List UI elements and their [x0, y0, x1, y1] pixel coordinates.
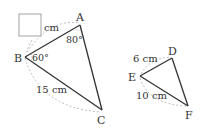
angle-a-label: 80°	[66, 34, 83, 45]
side-ed-label: 6 cm	[133, 53, 158, 64]
arc-b-upper	[26, 40, 32, 52]
similar-triangles-diagram: cm A B C 80° 60° 15 cm 6 cm D E F 10 cm	[0, 0, 205, 129]
vertex-d-label: D	[168, 45, 177, 58]
side-df	[172, 58, 188, 106]
side-bc-label: 15 cm	[36, 84, 68, 95]
vertex-e-label: E	[128, 71, 136, 84]
angle-b-label: 60°	[32, 52, 49, 63]
answer-box[interactable]	[19, 14, 41, 36]
side-ef-label: 10 cm	[136, 90, 168, 101]
vertex-f-label: F	[185, 109, 193, 122]
vertex-b-label: B	[14, 52, 22, 65]
triangle-def: 6 cm D E F 10 cm	[128, 45, 193, 122]
vertex-c-label: C	[97, 114, 105, 127]
side-ab-unit-label: cm	[44, 22, 60, 33]
vertex-a-label: A	[75, 11, 85, 24]
triangle-abc: cm A B C 80° 60° 15 cm	[14, 11, 105, 127]
